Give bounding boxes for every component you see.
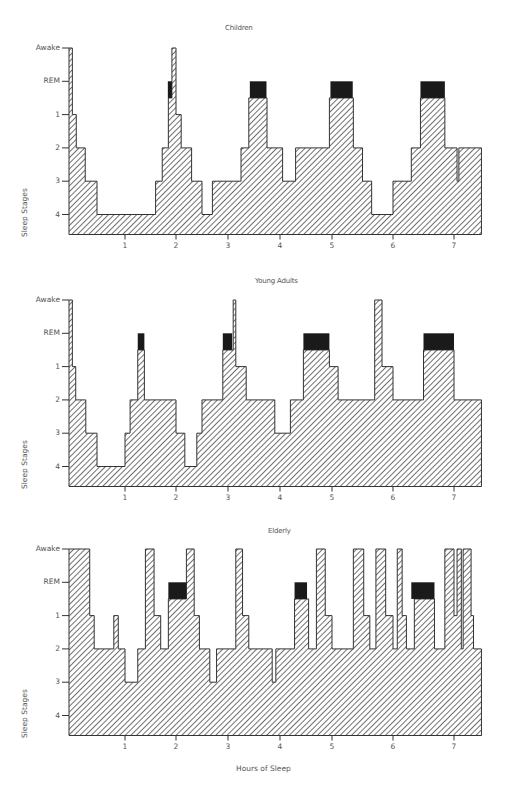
hypnogram-area [69,549,481,736]
y-tick-label: REM [20,328,60,337]
rem-block [250,81,267,98]
rem-block [168,582,186,599]
rem-block [424,333,455,350]
x-tick-label: 3 [222,742,234,751]
x-tick-label: 6 [387,742,399,751]
y-tick-label: 1 [20,110,60,119]
hypnogram-area [69,48,481,235]
y-tick-label: 1 [20,611,60,620]
x-tick-label: 4 [274,493,286,502]
chart-title: Elderly [268,527,291,535]
y-tick-label: Awake [20,544,60,553]
y-tick-label: 3 [20,677,60,686]
y-tick-label: 1 [20,362,60,371]
rem-block [138,333,145,350]
y-axis-label: Sleep Stages [20,689,29,738]
x-tick-label: 2 [170,742,182,751]
x-axis-label: Hours of Sleep [236,764,291,773]
y-tick-label: Awake [20,295,60,304]
rem-block [330,81,352,98]
x-tick-label: 1 [119,493,131,502]
y-tick-label: 3 [20,176,60,185]
x-tick-label: 1 [119,742,131,751]
y-axis-label: Sleep Stages [20,440,29,489]
chart-canvas [0,0,508,790]
rem-block [223,333,232,350]
chart-title: Young Adults [255,277,298,285]
rem-block [303,333,329,350]
y-tick-label: REM [20,76,60,85]
y-tick-label: 2 [20,143,60,152]
y-tick-label: 2 [20,644,60,653]
x-tick-label: 3 [222,241,234,250]
x-tick-label: 2 [170,241,182,250]
y-tick-label: 2 [20,395,60,404]
chart-title: Children [225,24,253,32]
x-tick-label: 6 [387,241,399,250]
x-tick-label: 7 [448,493,460,502]
x-tick-label: 7 [448,241,460,250]
x-tick-label: 1 [119,241,131,250]
x-tick-label: 5 [326,742,338,751]
x-tick-label: 5 [326,241,338,250]
y-tick-label: Awake [20,43,60,52]
x-tick-label: 6 [387,493,399,502]
rem-block [295,582,307,599]
x-tick-label: 2 [170,493,182,502]
rem-block [411,582,434,599]
rem-block [420,81,444,98]
y-axis-label: Sleep Stages [20,188,29,237]
x-tick-label: 4 [274,742,286,751]
hypnogram-area [69,300,481,487]
y-tick-label: 3 [20,428,60,437]
x-tick-label: 5 [326,493,338,502]
x-tick-label: 3 [222,493,234,502]
rem-block [168,81,172,98]
x-tick-label: 7 [448,742,460,751]
x-tick-label: 4 [274,241,286,250]
y-tick-label: REM [20,577,60,586]
